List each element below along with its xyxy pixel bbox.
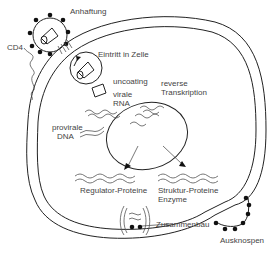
label-enzyme: Enzyme (158, 195, 187, 204)
label-struktur: Struktur-Proteine (158, 186, 219, 195)
mrna-regulator (75, 174, 135, 183)
label-reverse-2: Transkription (161, 88, 207, 97)
proviral-dna-strands (80, 127, 104, 137)
mrna-structural (158, 174, 218, 183)
viral-rna-strands (85, 110, 120, 118)
label-uncoating: uncoating (113, 77, 148, 86)
budding-virion (214, 196, 252, 232)
label-cd4: CD4 (7, 43, 24, 52)
label-entry: Eintritt in Zelle (98, 50, 149, 59)
arrow-to-regulator (124, 146, 138, 170)
label-regulator: Regulator-Proteine (80, 186, 148, 195)
hiv-replication-diagram: Anhaftung CD4 Eintritt in Zelle uncoatin… (0, 0, 275, 254)
rt-strands (130, 106, 164, 126)
label-reverse-1: reverse (161, 79, 188, 88)
label-budding: Ausknospen (220, 236, 264, 245)
label-proviral-1: provirale (52, 123, 83, 132)
label-assembly: Zusammenbau (156, 220, 209, 229)
capsid-uncoated (92, 84, 106, 97)
virion-attaching (28, 13, 72, 57)
label-viral-rna-1: virale (113, 90, 133, 99)
label-attachment: Anhaftung (70, 7, 106, 16)
label-viral-rna-2: RNA (113, 99, 131, 108)
label-proviral-2: DNA (57, 132, 75, 141)
